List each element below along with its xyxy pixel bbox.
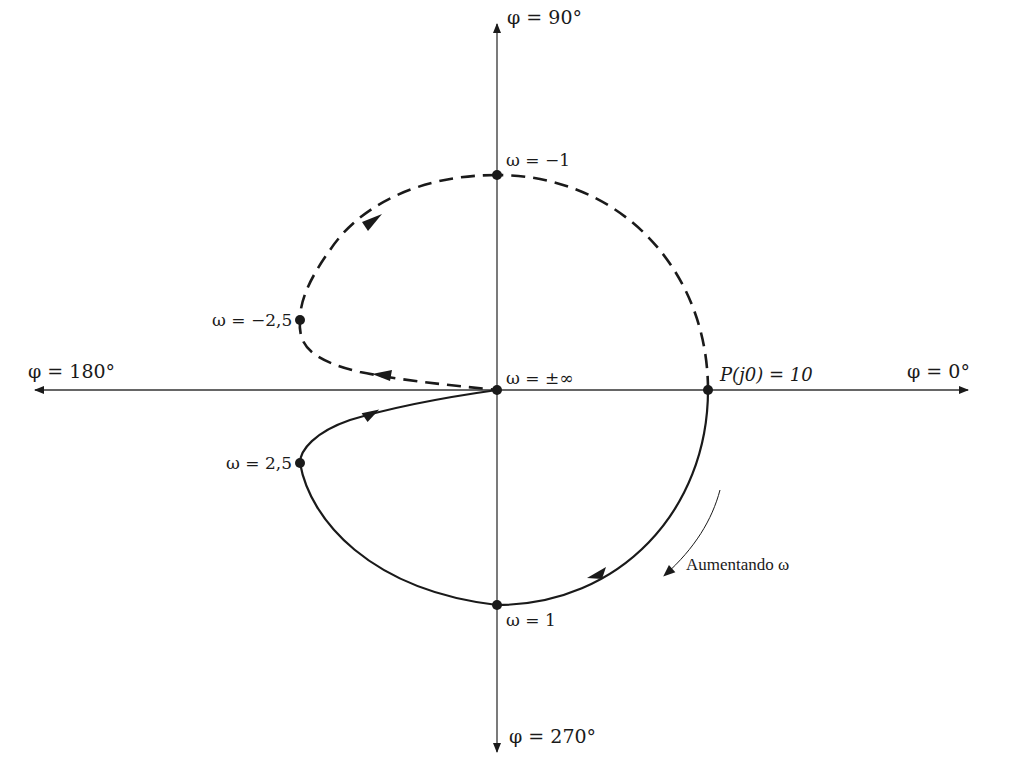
axis-label-180: φ = 180° [28,362,115,381]
label-increasing-omega: Aumentando ω [686,556,789,573]
axis-label-0: φ = 0° [907,362,970,381]
axis-label-270: φ = 270° [509,727,596,746]
positive-frequency-curve [300,390,708,605]
label-w-neg25: ω = −2,5 [212,312,292,329]
label-w-neg1: ω = −1 [506,152,570,169]
polar-plot [0,0,1010,783]
p-j0-point [703,385,713,395]
origin-point [492,385,502,395]
label-w-pos1: ω = 1 [506,612,556,629]
negative-frequency-curve [300,175,708,390]
direction-arrow-icon [372,370,392,381]
axis-label-90: φ = 90° [507,8,582,27]
w-pos25-point [295,458,305,468]
label-p-j0: P(j0) = 10 [720,366,813,384]
w-neg1-point [492,170,502,180]
w-neg25-point [295,315,305,325]
w-pos1-point [492,600,502,610]
label-w-pos25: ω = 2,5 [226,455,292,472]
label-origin: ω = ±∞ [506,370,573,387]
direction-arrow-icon [362,214,382,231]
